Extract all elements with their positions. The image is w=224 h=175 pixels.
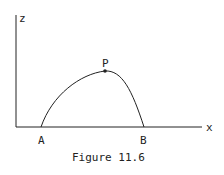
figure-diagram: z x P A B Figure 11.6	[0, 0, 224, 175]
point-a-label: A	[38, 134, 45, 147]
z-axis-label: z	[19, 12, 26, 25]
x-axis-label: x	[206, 121, 213, 134]
trajectory-curve	[41, 71, 144, 127]
figure-caption: Figure 11.6	[72, 151, 145, 164]
point-p-label: P	[102, 57, 109, 70]
point-b-label: B	[140, 134, 147, 147]
